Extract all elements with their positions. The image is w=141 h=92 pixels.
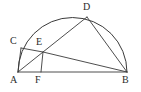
point-label-d: D [83,2,90,12]
geometry-canvas [0,0,141,92]
segment-e-f [41,52,43,72]
segment-ac [18,48,21,72]
segment-a-e-d [18,17,87,72]
point-label-c: C [10,36,17,46]
point-label-a: A [10,75,17,85]
point-label-b: B [122,75,129,85]
point-label-e: E [36,37,42,47]
point-label-f: F [35,75,41,85]
geometry-figure: A F B C E D [0,0,141,92]
segment-c-e-b [21,48,127,72]
semicircle-arc [18,18,127,72]
